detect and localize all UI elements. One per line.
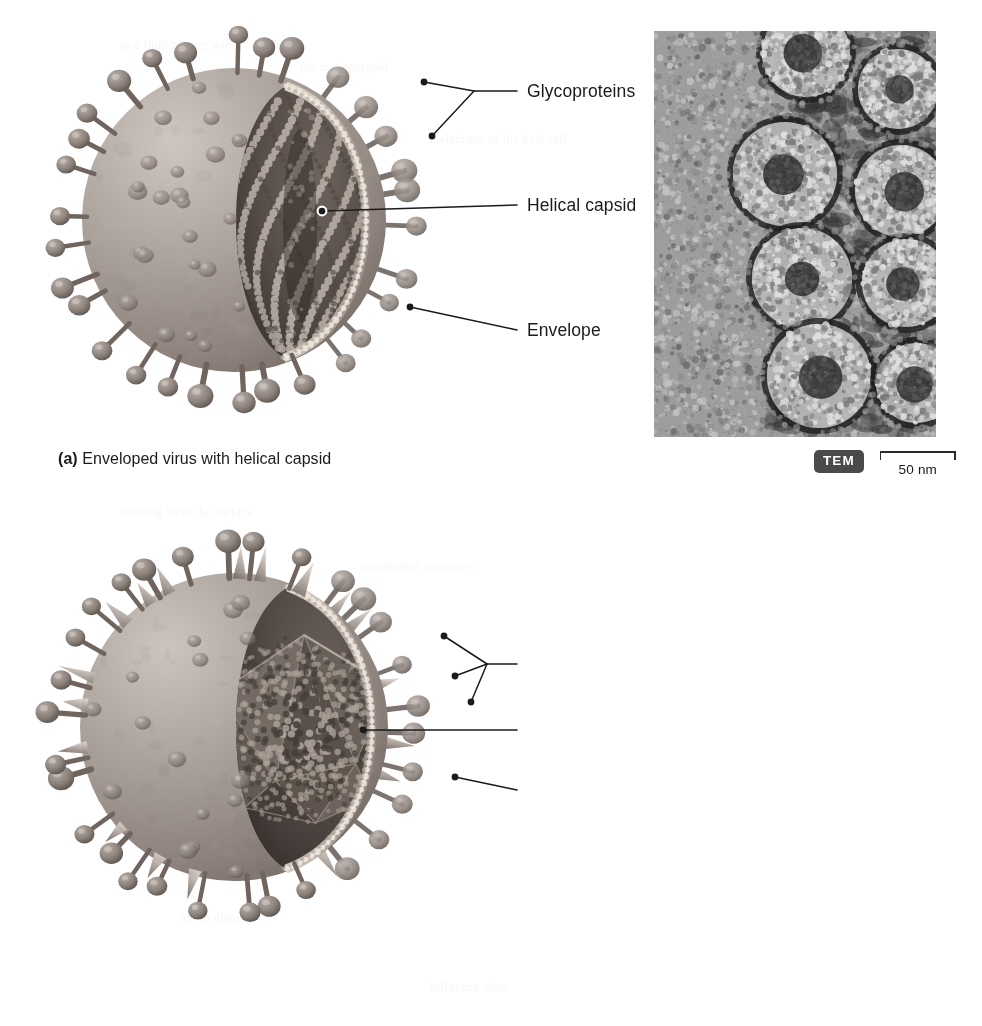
scale-tick-right-a xyxy=(954,451,956,460)
panel-a-enveloped-helical: Glycoproteins Helical capsid Envelope (a… xyxy=(0,0,982,505)
scale-label-a: 50 nm xyxy=(899,462,938,477)
scale-tick-left-a xyxy=(880,451,882,460)
tem-scale-row-a: TEM 50 nm xyxy=(814,450,956,477)
illustration-enveloped-virus-polyhedral xyxy=(38,515,508,935)
scale-bar-a xyxy=(880,451,956,460)
illustration-enveloped-virus-helical xyxy=(38,8,508,433)
micrograph-tem-helical xyxy=(654,31,936,437)
caption-panel-a: (a) Enveloped virus with helical capsid xyxy=(58,450,331,468)
label-envelope-a: Envelope xyxy=(527,320,601,341)
label-glycoproteins-a: Glycoproteins xyxy=(527,81,635,102)
caption-marker-a: (a) xyxy=(58,450,78,467)
label-helical-capsid: Helical capsid xyxy=(527,195,636,216)
scale-bar-group-a: 50 nm xyxy=(880,450,956,477)
caption-text-a: Enveloped virus with helical capsid xyxy=(82,450,331,467)
virus-structure-figure: as a lipid bilayer withthe nucleocapsidv… xyxy=(0,0,982,1026)
tem-badge-a: TEM xyxy=(814,450,864,473)
panel-b-enveloped-polyhedral: Glycoproteins Polyhedral capsid Envelope… xyxy=(0,505,982,1026)
